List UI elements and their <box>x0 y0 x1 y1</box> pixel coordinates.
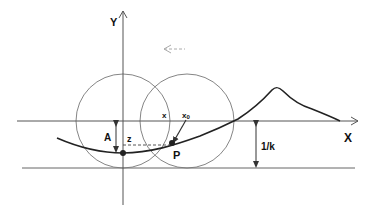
particle-point-p <box>169 140 175 146</box>
trough-point <box>120 150 126 156</box>
initial-x-label: x0 <box>182 111 190 120</box>
wave-profile-curve <box>57 87 340 153</box>
y-axis-label: Y <box>110 16 118 28</box>
x-axis-label: X <box>344 131 352 145</box>
trochoid-wave-diagram: Y X A z P x x0 1/k <box>0 0 376 213</box>
radius-label: 1/k <box>261 141 275 152</box>
current-x-label: x <box>162 111 167 120</box>
point-p-label: P <box>173 149 180 161</box>
amplitude-label: A <box>104 132 111 143</box>
displacement-arrow <box>174 120 186 141</box>
initial-x-subscript: 0 <box>186 114 190 120</box>
depth-label: z <box>127 134 132 144</box>
